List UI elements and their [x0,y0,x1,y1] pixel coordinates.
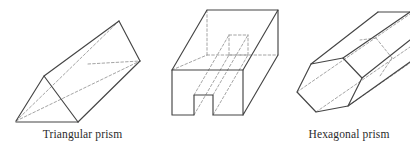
prism-illustration-plate: Triangular prism Hexagonal prism [0,0,410,150]
hexagonal-prism-figure [297,12,410,112]
caption-hexagonal-prism: Hexagonal prism [288,128,410,140]
triangular-prism-figure [16,21,148,124]
caption-triangular-prism: Triangular prism [0,128,165,140]
channel-prism-figure [172,10,278,115]
